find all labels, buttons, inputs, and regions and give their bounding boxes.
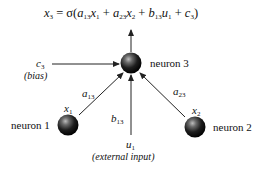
equation-operator: = σ( xyxy=(53,6,77,20)
equation-term: x2 xyxy=(126,6,135,20)
external-input-desc-label: (external input) xyxy=(92,151,154,163)
weight-a13-label: a13 xyxy=(82,87,95,103)
equation-operator: + xyxy=(135,6,148,20)
equation-term: u1 xyxy=(162,6,172,20)
weight-a23-label: a23 xyxy=(173,85,186,101)
equation-term: b13 xyxy=(149,6,162,20)
equation-term: a23 xyxy=(113,6,126,20)
equation-term: x3 xyxy=(44,6,53,20)
bias-desc-label: (bias) xyxy=(24,70,47,82)
neuron-1-label: neuron 1 xyxy=(11,119,50,131)
neuron-3-node xyxy=(121,53,142,74)
equation-term: c3 xyxy=(185,6,194,20)
input-b13-label: b13 xyxy=(111,112,124,128)
neuron-1-var-label: x1 xyxy=(64,102,72,118)
activation-equation: x3 = σ(a13x1 + a23x2 + b13u1 + c3) xyxy=(44,6,198,21)
equation-operator: ) xyxy=(194,6,198,20)
neuron-3-label: neuron 3 xyxy=(150,57,189,69)
equation-term: a13 xyxy=(77,6,90,20)
equation-operator: + xyxy=(172,6,185,20)
neuron-2-var-label: x2 xyxy=(192,104,200,120)
equation-term: x1 xyxy=(91,6,100,20)
neuron-2-label: neuron 2 xyxy=(213,121,252,133)
equation-operator: + xyxy=(100,6,113,20)
